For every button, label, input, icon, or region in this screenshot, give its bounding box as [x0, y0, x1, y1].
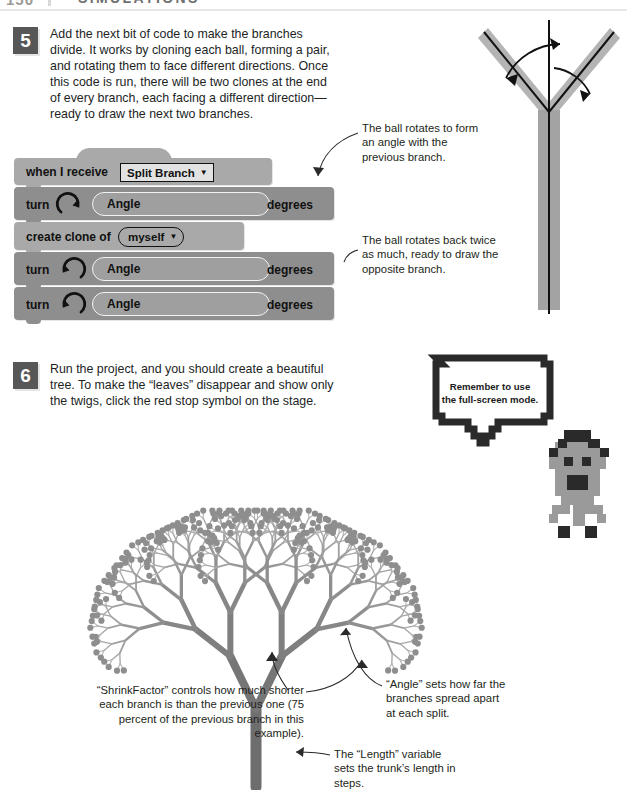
tree-leaf-ball: [294, 516, 300, 522]
tree-leaf-ball: [209, 533, 215, 539]
tree-branch: [157, 567, 165, 574]
tree-leaf-ball: [344, 537, 350, 543]
tree-leaf-ball: [400, 664, 406, 670]
tree-leaf-ball: [87, 625, 93, 631]
tree-leaf-ball: [362, 560, 368, 566]
speech-bubble-line-1: Remember to use: [440, 381, 540, 394]
tree-leaf-ball: [412, 649, 418, 655]
tree-leaf-ball: [377, 542, 383, 548]
pixel-character-icon: [540, 430, 618, 538]
block-turn-counterclockwise-1[interactable]: turn Angle degrees: [14, 252, 334, 285]
tree-leaf-ball: [216, 508, 222, 514]
tree-leaf-ball: [200, 508, 206, 514]
tree-branch: [125, 629, 139, 641]
tree-leaf-ball: [198, 552, 204, 558]
tree-leaf-ball: [191, 524, 197, 530]
tree-leaf-ball: [398, 575, 404, 581]
tree-leaf-ball: [98, 655, 104, 661]
tree-leaf-ball: [137, 557, 143, 563]
step-number-6: 6: [13, 362, 38, 389]
tree-leaf-ball: [123, 549, 129, 555]
page-folio: 150: [6, 0, 34, 8]
tree-branch: [196, 629, 231, 656]
tree-leaf-ball: [405, 578, 411, 584]
tree-leaf-ball: [157, 539, 163, 545]
tree-leaf-ball: [250, 530, 256, 536]
input-angle-1[interactable]: Angle: [92, 192, 270, 216]
tree-branch: [282, 583, 296, 613]
tree-leaf-ball: [300, 523, 306, 529]
tree-leaf-ball: [94, 612, 100, 618]
tree-leaf-ball: [223, 511, 229, 517]
tree-leaf-ball: [262, 511, 268, 517]
tree-leaf-ball: [212, 516, 218, 522]
tree-leaf-ball: [290, 511, 296, 517]
tree-leaf-ball: [395, 565, 401, 571]
tree-leaf-ball: [325, 527, 331, 533]
tree-leaf-ball: [419, 625, 425, 631]
tree-leaf-ball: [183, 516, 189, 522]
block-group-bracket: [345, 250, 358, 326]
tree-leaf-ball: [158, 533, 164, 539]
input-angle-3[interactable]: Angle: [92, 292, 270, 316]
tree-leaf-ball: [417, 618, 423, 624]
tree-leaf-ball: [355, 578, 361, 584]
block-turn-clockwise[interactable]: turn Angle degrees: [14, 187, 334, 220]
tree-leaf-ball: [410, 585, 416, 591]
turn-counterclockwise-icon: [58, 293, 84, 315]
tree-leaf-ball: [301, 538, 307, 544]
tree-leaf-ball: [111, 574, 117, 580]
block-when-i-receive[interactable]: when I receive Split Branch ▼: [14, 158, 272, 185]
tree-leaf-ball: [103, 596, 109, 602]
hat-block-cap: [76, 148, 172, 162]
tree-leaf-ball: [93, 597, 99, 603]
block-label-turn: turn: [26, 263, 49, 277]
tree-leaf-ball: [351, 534, 357, 540]
tree-leaf-ball: [413, 634, 419, 640]
tree-leaf-ball: [359, 552, 365, 558]
tree-branch: [386, 604, 399, 607]
block-create-clone[interactable]: create clone of myself ▼: [14, 222, 244, 250]
tree-leaf-ball: [306, 508, 312, 514]
tree-branch: [404, 628, 412, 635]
tree-branch: [122, 625, 140, 629]
tree-leaf-ball: [206, 523, 212, 529]
input-angle-2[interactable]: Angle: [92, 257, 270, 281]
dropdown-value-myself: myself: [128, 231, 164, 243]
tree-branch: [245, 568, 264, 583]
tree-branch: [282, 555, 293, 564]
tree-branch: [331, 559, 339, 576]
tree-branch: [248, 568, 267, 583]
tree-leaf-ball: [297, 508, 303, 514]
tree-leaf-ball: [325, 517, 331, 523]
step-number-5: 5: [13, 27, 38, 54]
callout-ball-rotates: The ball rotates to form an angle with t…: [362, 121, 492, 164]
tree-leaf-ball: [93, 649, 99, 655]
dropdown-split-branch[interactable]: Split Branch ▼: [120, 163, 214, 182]
tree-branch: [100, 628, 108, 635]
tree-branch: [155, 565, 165, 567]
tree-branch: [216, 583, 230, 613]
tree-leaf-ball: [415, 640, 421, 646]
tree-branch: [282, 629, 317, 656]
tree-branch: [372, 629, 386, 641]
tree-branch: [339, 535, 344, 544]
tree-leaf-ball: [89, 618, 95, 624]
tree-branch: [318, 535, 323, 544]
tree-leaf-ball: [394, 590, 400, 596]
tree-branch: [368, 581, 381, 584]
callout-length-variable: The “Length” variable sets the trunk’s l…: [334, 747, 464, 790]
tree-leaf-ball: [298, 533, 304, 539]
dropdown-myself[interactable]: myself ▼: [118, 227, 184, 247]
tree-leaf-ball: [106, 664, 112, 670]
tree-leaf-ball: [280, 508, 286, 514]
tree-leaf-ball: [412, 592, 418, 598]
callout-angle-variable: “Angle” sets how far the branches spread…: [386, 677, 511, 720]
tree-leaf-ball: [392, 668, 398, 674]
tree-leaf-ball: [141, 547, 147, 553]
tree-leaf-ball: [112, 569, 118, 575]
block-turn-counterclockwise-2[interactable]: turn Angle degrees: [14, 287, 334, 320]
tree-leaf-ball: [405, 659, 411, 665]
scratch-script: when I receive Split Branch ▼ turn Angle…: [14, 158, 344, 318]
tree-leaf-ball: [208, 539, 214, 545]
